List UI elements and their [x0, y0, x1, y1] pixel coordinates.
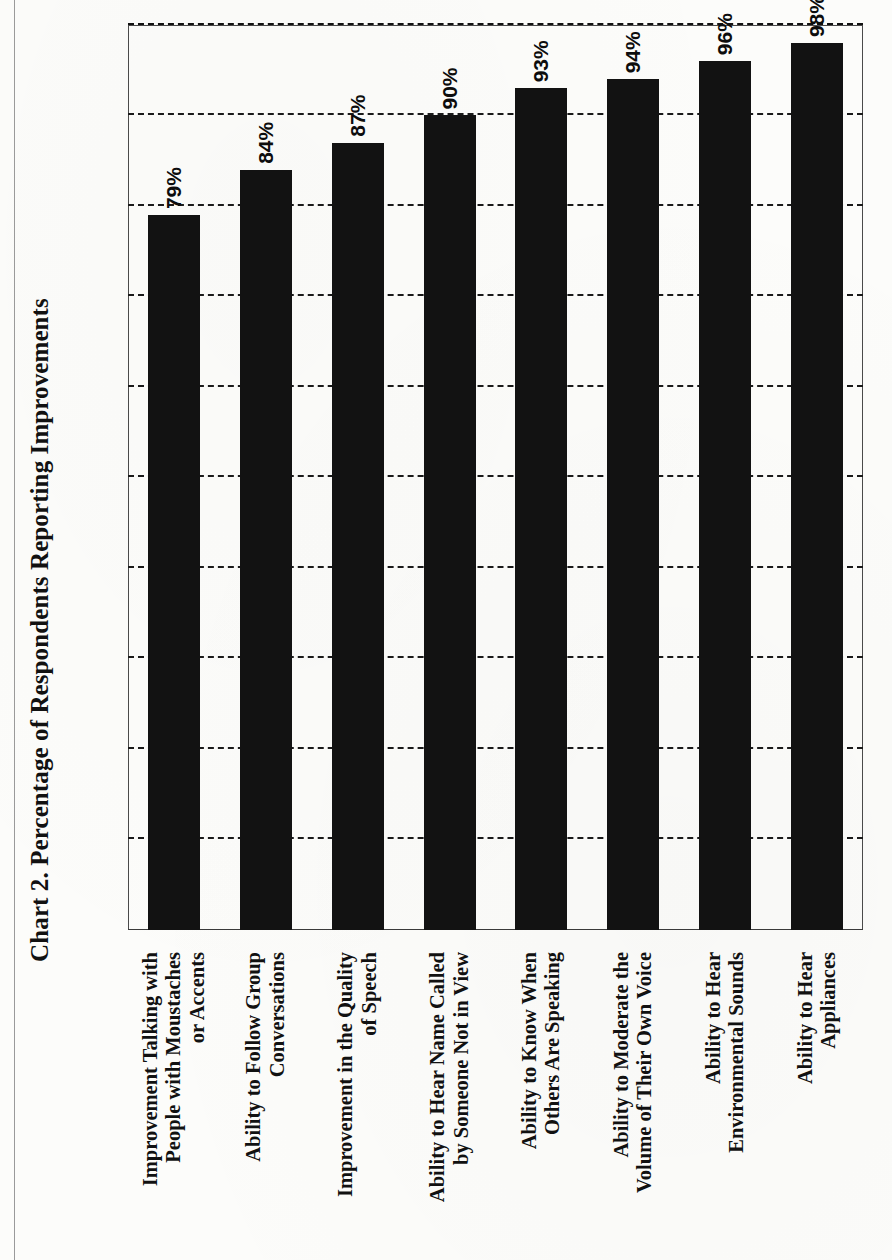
bar-row: 87% — [332, 25, 384, 930]
category-label-line: by Someone Not in View — [450, 952, 473, 1202]
bar: 93% — [515, 88, 567, 930]
plot-area: 79%84%87%90%93%94%96%98% — [128, 25, 863, 930]
category-label-line: People with Moustaches — [162, 952, 185, 1186]
category-label-line: of Speech — [358, 952, 381, 1197]
rotated-figure-stage: Chart 2. Percentage of Respondents Repor… — [0, 0, 892, 1260]
bar: 84% — [240, 170, 292, 930]
bar-row: 84% — [240, 25, 292, 930]
bar: 87% — [332, 143, 384, 930]
category-label-line: Ability to Hear — [702, 952, 725, 1153]
category-label-line: Ability to Moderate the — [610, 952, 633, 1193]
bar: 79% — [148, 215, 200, 930]
category-label: Improvement Talking withPeople with Mous… — [148, 938, 200, 1260]
category-label-line: Conversations — [266, 952, 289, 1162]
category-label: Ability to HearEnvironmental Sounds — [699, 938, 751, 1260]
bar-value-label: 96% — [713, 13, 737, 55]
page-title: Chart 2. Percentage of Respondents Repor… — [26, 0, 54, 1260]
category-label-line: Ability to Hear Name Called — [426, 952, 449, 1202]
category-label: Ability to Hear Name Calledby Someone No… — [424, 938, 476, 1260]
bar-row: 94% — [607, 25, 659, 930]
bar-value-label: 90% — [438, 67, 462, 109]
category-label-line: Ability to Know When — [518, 952, 541, 1149]
category-label-line: Ability to Follow Group — [242, 952, 265, 1162]
bar-row: 98% — [791, 25, 843, 930]
bar: 94% — [607, 79, 659, 930]
category-label: Ability to Follow GroupConversations — [240, 938, 292, 1260]
bar-row: 93% — [515, 25, 567, 930]
category-label-line: Environmental Sounds — [725, 952, 748, 1153]
category-label-line: Volume of Their Own Voice — [633, 952, 656, 1193]
bar-value-label: 87% — [346, 95, 370, 137]
category-label-line: Others Are Speaking — [541, 952, 564, 1149]
bar: 98% — [791, 43, 843, 930]
category-label-line: Ability to Hear — [794, 952, 817, 1084]
category-label: Ability to Moderate theVolume of Their O… — [607, 938, 659, 1260]
category-axis-labels: Improvement Talking withPeople with Mous… — [128, 938, 863, 1260]
bar: 96% — [699, 61, 751, 930]
category-label-line: Improvement Talking with — [139, 952, 162, 1186]
scanned-page: Chart 2. Percentage of Respondents Repor… — [0, 0, 892, 1260]
category-label: Ability to HearAppliances — [791, 938, 843, 1260]
bar-value-label: 84% — [254, 122, 278, 164]
category-label: Improvement in the Qualityof Speech — [332, 938, 384, 1260]
bar: 90% — [424, 116, 476, 931]
bar-value-label: 79% — [162, 167, 186, 209]
bar-series: 79%84%87%90%93%94%96%98% — [128, 25, 863, 930]
category-label-line: Improvement in the Quality — [334, 952, 357, 1197]
bar-value-label: 93% — [529, 40, 553, 82]
bar-row: 79% — [148, 25, 200, 930]
category-label: Ability to Know WhenOthers Are Speaking — [515, 938, 567, 1260]
bar-value-label: 98% — [805, 0, 829, 37]
bar-value-label: 94% — [621, 31, 645, 73]
bar-row: 96% — [699, 25, 751, 930]
category-label-line: or Accents — [186, 952, 209, 1186]
category-label-line: Appliances — [817, 952, 840, 1084]
bar-row: 90% — [424, 25, 476, 930]
